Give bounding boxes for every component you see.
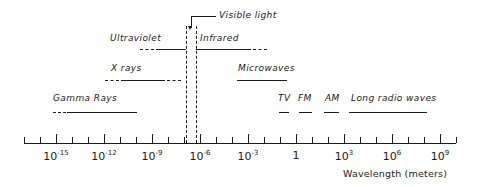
axis-tick-label-exponent: -6 <box>204 149 211 157</box>
axis-tick-major <box>152 134 153 143</box>
axis-tick-major <box>200 134 201 143</box>
visible-light-right-boundary <box>196 26 197 143</box>
axis-tick-minor <box>24 137 25 143</box>
axis-tick-label-exponent: 9 <box>445 149 449 157</box>
axis-tick-label: 10-15 <box>43 149 68 163</box>
fm-band-bar <box>299 112 312 113</box>
axis-tick-label-exponent: -9 <box>156 149 163 157</box>
axis-tick-label: 109 <box>431 149 449 163</box>
axis-tick-label: 10-6 <box>190 149 211 163</box>
visible-light-leader-horizontal <box>191 16 216 17</box>
axis-tick-minor <box>216 137 217 143</box>
infrared-band-bar <box>196 49 251 50</box>
axis-tick-label-exponent: -12 <box>105 149 116 157</box>
axis-tick-minor <box>184 137 185 143</box>
gamma-rays-band-bar <box>67 112 137 113</box>
axis-tick-label: 106 <box>383 149 401 163</box>
visible-light-arrow-icon <box>188 26 192 30</box>
axis-tick-minor <box>72 137 73 143</box>
axis-tick-minor <box>312 137 313 143</box>
axis-tick-major <box>440 134 441 143</box>
axis-title: Wavelength (meters) <box>343 168 447 179</box>
axis-tick-minor <box>40 137 41 143</box>
axis-tick-minor <box>328 137 329 143</box>
x-rays-label: X rays <box>111 63 142 73</box>
axis-tick-minor <box>456 137 457 143</box>
long-radio-waves-band-bar <box>349 112 427 113</box>
axis-tick-minor <box>232 137 233 143</box>
axis-tick-minor <box>264 137 265 143</box>
axis-tick-major <box>104 134 105 143</box>
fm-label: FM <box>298 93 312 103</box>
long-radio-waves-label: Long radio waves <box>351 93 436 103</box>
microwaves-band-bar <box>237 80 287 81</box>
axis-tick-minor <box>408 137 409 143</box>
x-rays-band-dash-right <box>167 80 181 81</box>
axis-tick-minor <box>376 137 377 143</box>
axis-tick-label-base: 10 <box>43 150 57 163</box>
axis-tick-label-base: 10 <box>431 150 445 163</box>
axis-tick-label-base: 10 <box>190 150 204 163</box>
tv-band-bar <box>279 112 289 113</box>
axis-tick-minor <box>168 137 169 143</box>
tv-label: TV <box>278 93 290 103</box>
am-band-bar <box>324 112 339 113</box>
axis-tick-major <box>248 134 249 143</box>
gamma-rays-label: Gamma Rays <box>53 93 117 103</box>
axis-tick-minor <box>360 137 361 143</box>
axis-tick-label-exponent: -3 <box>252 149 259 157</box>
wavelength-axis-line <box>24 143 456 144</box>
axis-tick-minor <box>424 137 425 143</box>
axis-tick-major <box>296 134 297 143</box>
axis-tick-label-base: 10 <box>335 150 349 163</box>
axis-tick-label: 103 <box>335 149 353 163</box>
axis-tick-minor <box>88 137 89 143</box>
axis-tick-major <box>392 134 393 143</box>
axis-tick-label-base: 10 <box>383 150 397 163</box>
infrared-label: Infrared <box>200 33 239 43</box>
axis-tick-label-exponent: -15 <box>57 149 68 157</box>
axis-tick-label: 10-12 <box>91 149 116 163</box>
axis-tick-major <box>344 134 345 143</box>
visible-light-left-boundary <box>186 26 187 143</box>
infrared-band-dash-right <box>253 49 267 50</box>
ultraviolet-label: Ultraviolet <box>110 33 161 43</box>
microwaves-label: Microwaves <box>238 63 295 73</box>
axis-tick-label-base: 10 <box>142 150 156 163</box>
electromagnetic-spectrum-figure: Visible light Ultraviolet Infrared X ray… <box>0 0 482 187</box>
axis-tick-major <box>56 134 57 143</box>
ultraviolet-band-dash-left <box>140 49 154 50</box>
am-label: AM <box>325 93 340 103</box>
axis-tick-label: 1 <box>293 149 300 162</box>
x-rays-band-dash-left <box>105 80 119 81</box>
axis-tick-label-exponent: 3 <box>349 149 353 157</box>
axis-tick-minor <box>280 137 281 143</box>
gamma-rays-band-dash-left <box>53 112 66 113</box>
visible-light-label: Visible light <box>219 10 277 20</box>
axis-tick-minor <box>136 137 137 143</box>
axis-tick-label: 10-9 <box>142 149 163 163</box>
ultraviolet-band-bar <box>156 49 186 50</box>
axis-tick-label-base: 10 <box>91 150 105 163</box>
axis-tick-label: 10-3 <box>238 149 259 163</box>
axis-tick-label-base: 10 <box>238 150 252 163</box>
axis-tick-minor <box>120 137 121 143</box>
x-rays-band-bar <box>121 80 165 81</box>
axis-tick-label-base: 1 <box>293 149 300 162</box>
axis-tick-label-exponent: 6 <box>397 149 401 157</box>
